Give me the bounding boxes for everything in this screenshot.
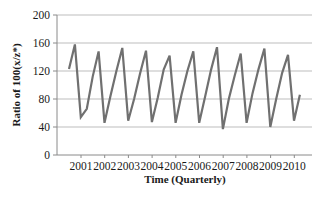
y-tick-label: 0 xyxy=(44,149,50,161)
y-axis-title-wrap: Ratio of 100(x/z*) xyxy=(4,15,28,155)
x-tick-label: 2009 xyxy=(259,160,282,172)
y-tick-label: 40 xyxy=(39,121,51,133)
x-tick-label: 2003 xyxy=(117,160,140,172)
x-tick-label: 2010 xyxy=(283,160,306,172)
x-tick-label: 2006 xyxy=(188,160,211,172)
y-axis-title: Ratio of 100(x/z*) xyxy=(10,43,22,126)
x-tick-label: 2001 xyxy=(70,160,93,172)
x-tick-label: 2002 xyxy=(93,160,116,172)
y-tick-label: 120 xyxy=(33,65,51,77)
y-tick-label: 160 xyxy=(33,37,51,49)
line-chart: 0408012016020020012002200320042005200620… xyxy=(0,0,330,197)
y-tick-label: 200 xyxy=(33,9,51,21)
plot-area: 0408012016020020012002200320042005200620… xyxy=(0,0,330,197)
y-tick-label: 80 xyxy=(39,93,51,105)
x-tick-label: 2004 xyxy=(141,160,164,172)
x-axis-title: Time (Quarterly) xyxy=(55,173,315,185)
x-tick-label: 2005 xyxy=(164,160,187,172)
x-tick-label: 2007 xyxy=(212,160,235,172)
data-line xyxy=(69,44,300,129)
x-tick-label: 2008 xyxy=(235,160,258,172)
